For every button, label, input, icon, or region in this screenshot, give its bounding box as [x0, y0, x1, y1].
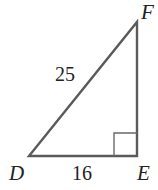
triangle-def — [29, 22, 137, 156]
vertex-label-d: D — [8, 161, 24, 185]
right-angle-marker — [114, 133, 137, 156]
vertex-label-e: E — [136, 161, 150, 185]
side-label-hypotenuse: 25 — [55, 63, 75, 85]
side-label-base: 16 — [72, 162, 92, 184]
triangle-diagram: F D E 25 16 — [0, 0, 158, 190]
vertex-label-f: F — [140, 0, 154, 24]
